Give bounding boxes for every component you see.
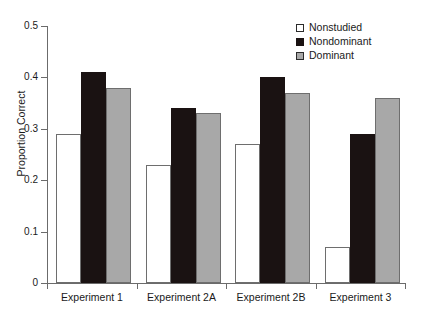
y-tick-label-0.3: 0.3: [4, 124, 38, 134]
filled-black-square-swatch-icon: [296, 38, 304, 46]
bar-chart-figure: Proportion Correct 0.5 0.4 0.3 0.2 0.1 0: [0, 0, 422, 316]
legend-item-nondominant: Nondominant: [296, 35, 371, 48]
y-tick-label-0.4: 0.4: [4, 72, 38, 82]
bar-experiment-1-nonstudied: [56, 134, 81, 283]
legend-item-dominant: Dominant: [296, 49, 371, 62]
x-tick-2: [226, 283, 227, 289]
x-tick-end: [405, 283, 406, 289]
x-group-label-experiment-2b: Experiment 2B: [226, 291, 316, 303]
bar-experiment-1-dominant: [106, 88, 131, 283]
legend: Nonstudied Nondominant Dominant: [296, 21, 371, 63]
bar-experiment-2b-dominant: [285, 93, 310, 283]
legend-label-dominant: Dominant: [309, 50, 354, 61]
x-group-label-experiment-1: Experiment 1: [47, 291, 137, 303]
bar-experiment-3-nondominant: [350, 134, 375, 283]
x-tick-1: [137, 283, 138, 289]
bar-experiment-2a-nondominant: [171, 108, 196, 283]
y-tick-label-0: 0: [4, 278, 38, 288]
y-tick-label-0.1: 0.1: [4, 227, 38, 237]
open-square-swatch-icon: [296, 24, 304, 32]
y-tick-label-0.2: 0.2: [4, 175, 38, 185]
legend-label-nondominant: Nondominant: [309, 36, 371, 47]
bar-experiment-2b-nonstudied: [235, 144, 260, 283]
legend-label-nonstudied: Nonstudied: [309, 22, 362, 33]
x-tick-start: [47, 283, 48, 289]
y-tick-label-0.5: 0.5: [4, 21, 38, 31]
x-tick-3: [316, 283, 317, 289]
x-group-label-experiment-3: Experiment 3: [316, 291, 405, 303]
bar-experiment-1-nondominant: [81, 72, 106, 283]
bar-experiment-3-nonstudied: [325, 247, 350, 283]
legend-item-nonstudied: Nonstudied: [296, 21, 371, 34]
plot-area: [47, 26, 405, 283]
filled-gray-square-swatch-icon: [296, 52, 304, 60]
x-group-label-experiment-2a: Experiment 2A: [137, 291, 226, 303]
bar-experiment-2a-nonstudied: [146, 165, 171, 283]
bar-experiment-3-dominant: [375, 98, 400, 283]
bar-experiment-2a-dominant: [196, 113, 221, 283]
bar-experiment-2b-nondominant: [260, 77, 285, 283]
